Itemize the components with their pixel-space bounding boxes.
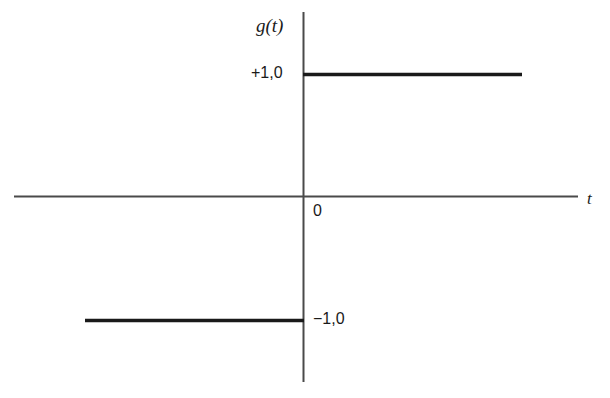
signum-function-figure: g(t) t +1,0 −1,0 0 <box>0 0 610 398</box>
y-axis-label: g(t) <box>256 16 283 35</box>
x-axis-label: t <box>587 190 592 207</box>
y-tick-label-positive-one: +1,0 <box>251 65 283 81</box>
y-tick-label-negative-one: −1,0 <box>313 311 345 327</box>
plot-canvas <box>0 0 610 398</box>
origin-label: 0 <box>313 203 322 219</box>
